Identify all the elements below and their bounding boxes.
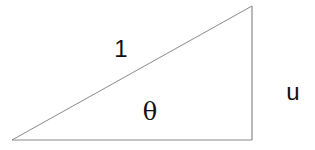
angle-label: θ [143, 98, 157, 126]
hypotenuse-label: 1 [114, 35, 127, 62]
opposite-side-label: u [286, 78, 299, 105]
right-triangle-diagram: 1 θ u [0, 0, 315, 150]
hypotenuse-edge [12, 6, 252, 140]
